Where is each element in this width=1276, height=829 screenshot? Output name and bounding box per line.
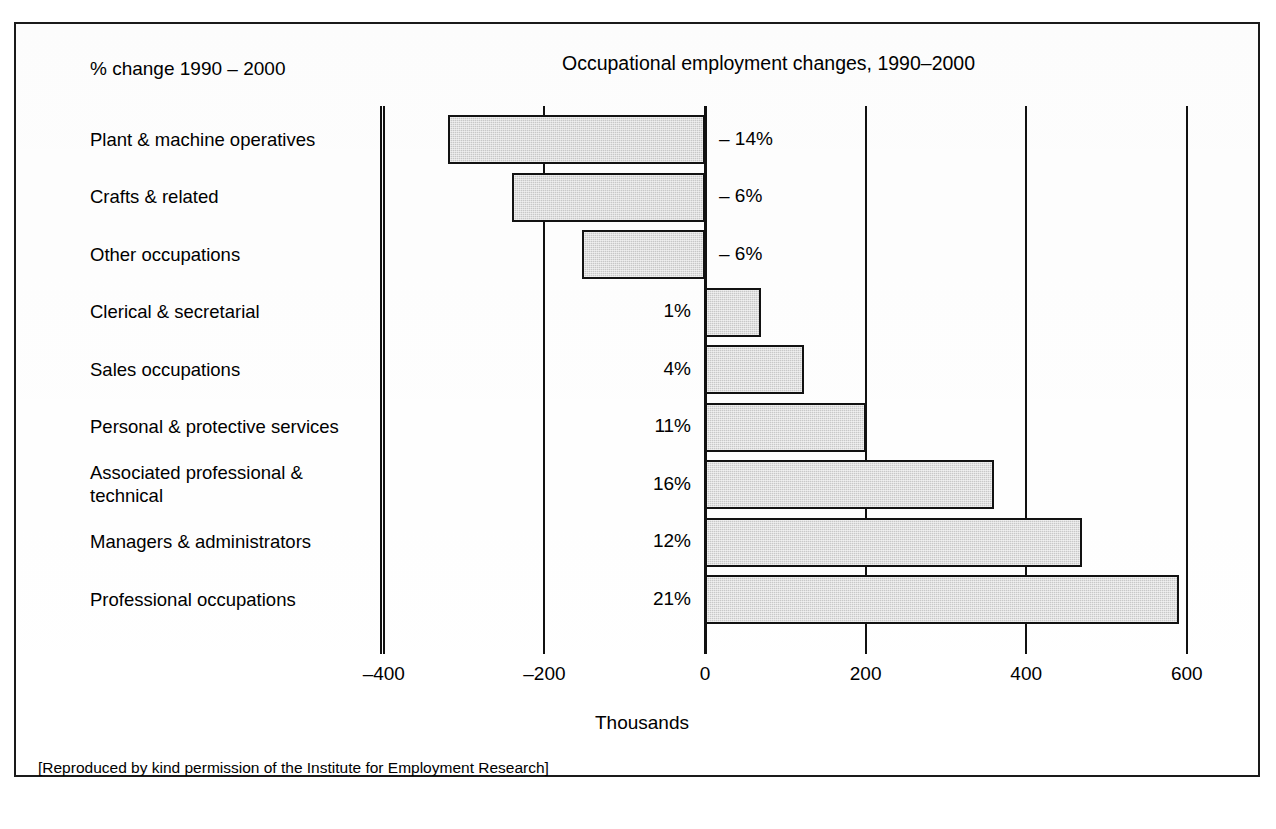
category-label-2: Other occupations — [90, 243, 240, 267]
bar-8 — [705, 575, 1179, 624]
x-tick-label-0: 0 — [700, 663, 711, 685]
value-label-7: 12% — [653, 530, 691, 552]
category-label-4: Sales occupations — [90, 358, 240, 382]
value-label-6: 16% — [653, 473, 691, 495]
bar-5 — [705, 403, 866, 452]
value-label-3: 1% — [664, 300, 691, 322]
x-tick-label-600: 600 — [1171, 663, 1203, 685]
chart-plot-area: –400–2000200400600Plant & machine operat… — [16, 24, 1262, 779]
category-label-7: Managers & administrators — [90, 530, 311, 554]
reproduction-credit: [Reproduced by kind permission of the In… — [38, 759, 549, 777]
value-label-8: 21% — [653, 588, 691, 610]
figure-frame: % change 1990 – 2000 Occupational employ… — [14, 22, 1260, 777]
gridline-400 — [1025, 106, 1027, 654]
bar-1 — [512, 173, 705, 222]
category-label-3: Clerical & secretarial — [90, 300, 260, 324]
category-label-8: Professional occupations — [90, 588, 296, 612]
gridline-200 — [865, 106, 867, 654]
x-tick-label--400: –400 — [363, 663, 405, 685]
value-label-2: – 6% — [719, 243, 762, 265]
bar-2 — [582, 230, 705, 279]
category-label-0: Plant & machine operatives — [90, 128, 315, 152]
bar-4 — [705, 345, 804, 394]
value-label-5: 11% — [654, 415, 691, 437]
x-tick-label-400: 400 — [1010, 663, 1042, 685]
value-label-0: – 14% — [719, 128, 773, 150]
page-top-heading — [0, 0, 1276, 6]
category-label-5: Personal & protective services — [90, 415, 339, 439]
x-axis-title-label: Thousands — [595, 712, 689, 733]
bar-7 — [705, 518, 1082, 567]
value-label-4: 4% — [664, 358, 691, 380]
category-label-6: Associated professional & technical — [90, 461, 303, 508]
value-label-1: – 6% — [719, 185, 762, 207]
x-axis-title: Thousands — [16, 712, 1262, 734]
x-tick-label--200: –200 — [523, 663, 565, 685]
gridline-600 — [1186, 106, 1188, 654]
x-tick-label-200: 200 — [850, 663, 882, 685]
bar-6 — [705, 460, 994, 509]
bar-3 — [705, 288, 761, 337]
gridline--400 — [383, 106, 385, 654]
label-plot-divider — [380, 106, 382, 654]
category-label-1: Crafts & related — [90, 185, 219, 209]
bar-0 — [448, 115, 705, 164]
